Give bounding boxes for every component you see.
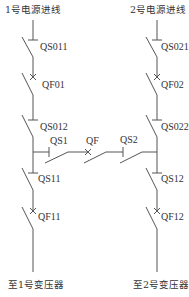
qs022-blade bbox=[146, 115, 157, 137]
qs1-blade bbox=[45, 152, 68, 163]
right-load-label: 至2号变压器 bbox=[133, 280, 189, 290]
label-qf: QF bbox=[86, 136, 99, 146]
qf-blade bbox=[84, 152, 106, 163]
left-source-title: 1号电源进线 bbox=[5, 5, 61, 15]
left-load-label: 至1号变压器 bbox=[8, 280, 64, 290]
qf12-blade bbox=[146, 207, 157, 229]
right-source-title: 2号电源进线 bbox=[130, 5, 186, 15]
label-qs2: QS2 bbox=[120, 135, 138, 145]
label-qs1: QS1 bbox=[50, 136, 68, 146]
label-qf11: QF11 bbox=[38, 212, 60, 222]
label-qs12: QS12 bbox=[161, 174, 184, 184]
label-qf12: QF12 bbox=[161, 212, 184, 222]
qf11-blade bbox=[22, 207, 33, 229]
qf02-blade bbox=[146, 73, 157, 95]
label-qs11: QS11 bbox=[38, 174, 60, 184]
label-qs012: QS012 bbox=[40, 122, 68, 132]
qs11-blade bbox=[22, 168, 33, 190]
qs12-blade bbox=[146, 168, 157, 190]
label-qs021: QS021 bbox=[161, 42, 189, 52]
label-qs011: QS011 bbox=[40, 42, 67, 52]
label-qf02: QF02 bbox=[161, 80, 184, 90]
qf01-blade bbox=[22, 73, 33, 95]
qs012-blade bbox=[22, 115, 33, 137]
label-qf01: QF01 bbox=[42, 80, 65, 90]
label-qs022: QS022 bbox=[161, 122, 189, 132]
